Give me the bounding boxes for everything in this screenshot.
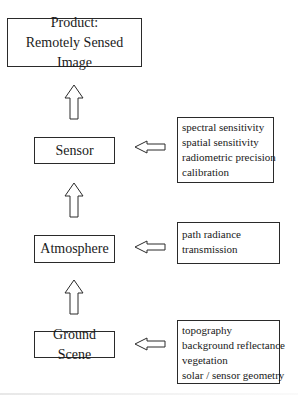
sensor-label: Sensor (55, 141, 93, 161)
arrow-left-icon (134, 240, 166, 254)
arrow-up-icon (64, 182, 84, 218)
ground-scene-box: Ground Scene (34, 331, 115, 358)
caption-remnant (0, 393, 298, 395)
sensor-factors-box: spectral sensitivity spatial sensitivity… (177, 117, 274, 183)
ground-scene-factors-box: topography background reflectance vegeta… (177, 320, 280, 384)
ground-scene-label: Ground Scene (35, 325, 114, 365)
arrow-left-icon (134, 337, 166, 351)
ground-scene-factor: solar / sensor geometry (182, 368, 275, 383)
ground-scene-factor: topography (182, 323, 275, 338)
product-box: Product: Remotely Sensed Image (7, 18, 142, 67)
arrow-up-icon (64, 279, 84, 315)
arrow-up-icon (64, 84, 84, 120)
sensor-factor: spectral sensitivity (182, 120, 269, 135)
atmosphere-factors-box: path radiance transmission (177, 222, 280, 264)
ground-scene-factor: vegetation (182, 353, 275, 368)
atmosphere-factor: transmission (182, 242, 275, 257)
sensor-factor: spatial sensitivity (182, 135, 269, 150)
atmosphere-box: Atmosphere (34, 235, 115, 263)
figure-caption-cropped (0, 389, 298, 398)
arrow-left-icon (134, 140, 166, 154)
sensor-box: Sensor (34, 137, 115, 164)
sensor-factor: calibration (182, 165, 269, 180)
product-title: Product: (51, 13, 98, 33)
ground-scene-factor: background reflectance (182, 338, 275, 353)
atmosphere-label: Atmosphere (40, 239, 108, 259)
product-subtitle: Remotely Sensed Image (8, 33, 141, 73)
atmosphere-factor: path radiance (182, 227, 275, 242)
sensor-factor: radiometric precision (182, 150, 269, 165)
